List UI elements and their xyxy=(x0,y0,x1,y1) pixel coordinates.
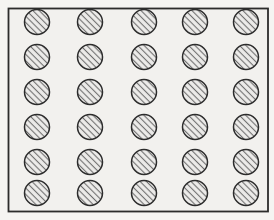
hatched-circle xyxy=(78,115,103,140)
hatched-circle xyxy=(132,45,157,70)
hatched-circle xyxy=(78,80,103,105)
hatched-circle xyxy=(183,45,208,70)
hatched-circle xyxy=(234,10,259,35)
frame-rect xyxy=(9,9,269,212)
hatched-circle xyxy=(183,80,208,105)
hatched-circle xyxy=(25,115,50,140)
hatched-circle xyxy=(132,80,157,105)
hatched-circle-grid-figure xyxy=(0,0,274,220)
hatched-circle xyxy=(234,150,259,175)
hatched-circle xyxy=(25,80,50,105)
hatched-circle xyxy=(25,181,50,206)
hatched-circle xyxy=(78,181,103,206)
hatched-circle xyxy=(183,150,208,175)
hatched-circle xyxy=(132,10,157,35)
hatched-circle xyxy=(25,150,50,175)
hatched-circle xyxy=(25,10,50,35)
hatched-circle xyxy=(234,80,259,105)
hatched-circle xyxy=(183,10,208,35)
hatched-circle xyxy=(132,115,157,140)
figure-canvas xyxy=(0,0,274,220)
hatched-circle xyxy=(234,115,259,140)
hatched-circle xyxy=(183,115,208,140)
hatched-circle xyxy=(234,45,259,70)
hatched-circle xyxy=(132,181,157,206)
hatched-circle xyxy=(25,45,50,70)
hatched-circle xyxy=(132,150,157,175)
hatched-circle xyxy=(78,10,103,35)
hatched-circle xyxy=(183,181,208,206)
hatched-circle xyxy=(234,181,259,206)
hatched-circle xyxy=(78,150,103,175)
hatched-circle xyxy=(78,45,103,70)
